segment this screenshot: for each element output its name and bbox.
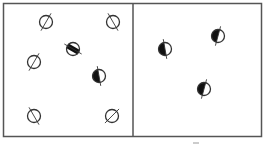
particle-slashed (105, 109, 119, 123)
particle-half-filled (211, 26, 224, 45)
particle-half-filled (92, 66, 105, 86)
particle-striped (64, 43, 81, 56)
particle-open (28, 107, 41, 124)
particle-half-filled (197, 79, 210, 98)
particle-open (28, 53, 41, 70)
particle-open (107, 13, 120, 30)
particle-half-filled (159, 39, 172, 59)
particle-open (40, 13, 53, 30)
particles-layer (28, 13, 225, 124)
diagram (0, 0, 265, 145)
